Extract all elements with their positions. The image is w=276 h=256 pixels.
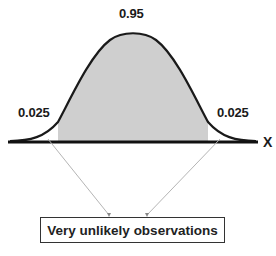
right-tail-probability-label: 0.025 <box>217 105 249 120</box>
right-tail-arrow <box>147 139 220 215</box>
center-probability-label: 0.95 <box>119 6 144 21</box>
x-axis-label: X <box>263 134 272 150</box>
callout-text: Very unlikely observations <box>47 223 217 238</box>
left-tail-arrow <box>48 139 109 215</box>
left-tail-probability-label: 0.025 <box>18 105 50 120</box>
unlikely-observations-callout: Very unlikely observations <box>40 217 225 243</box>
central-shaded-region <box>58 33 208 142</box>
